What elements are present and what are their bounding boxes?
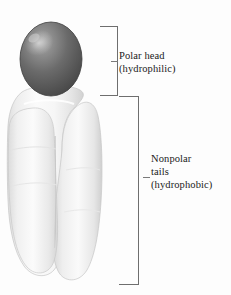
nonpolar-tails-label-line1: Nonpolar (151, 152, 212, 165)
polar-head-label-line1: Polar head (119, 49, 176, 62)
phospholipid-figure: Polar head (hydrophilic) Nonpolar tails … (0, 0, 231, 295)
bracket-tick (111, 61, 118, 62)
nonpolar-tails-label: Nonpolar tails (hydrophobic) (151, 152, 212, 191)
bracket-tick (143, 177, 150, 178)
bracket-spine (138, 96, 139, 285)
bracket-bottom-arm (119, 284, 139, 285)
nonpolar-tails-label-line2: tails (151, 165, 212, 178)
nonpolar-tails-shape (7, 86, 102, 280)
bracket-bottom-arm (100, 95, 118, 96)
nonpolar-tails-label-line3: (hydrophobic) (151, 178, 212, 191)
bracket-top-arm (119, 96, 139, 97)
polar-head-label: Polar head (hydrophilic) (119, 49, 176, 75)
polar-head-shape (20, 22, 82, 96)
phospholipid-molecule-illustration (0, 0, 115, 295)
polar-head-label-line2: (hydrophilic) (119, 62, 176, 75)
bracket-top-arm (100, 26, 118, 27)
